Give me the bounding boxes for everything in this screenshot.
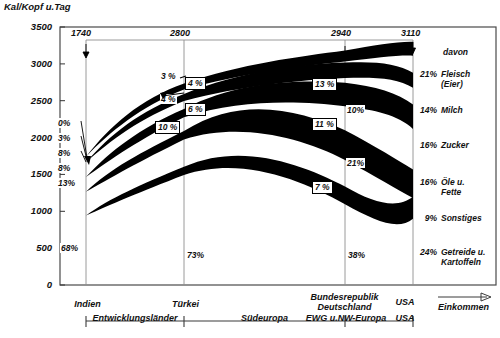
x-category-usa: USA	[380, 297, 430, 307]
indien-leader-lines	[72, 118, 112, 188]
top-value-2800: 2800	[170, 28, 190, 38]
tuerkei-leader-lines	[160, 72, 188, 102]
legend-pct-zucker: 16%	[415, 140, 437, 150]
pct-tuerkei-milch: 4 %	[185, 77, 206, 90]
legend-label-getreide-2: Kartoffeln	[441, 257, 481, 267]
top-value-3110: 3110	[401, 28, 420, 38]
x-group-usa: USA	[380, 313, 430, 323]
pct-indien-milch: 3%	[57, 133, 71, 143]
x-category-indien: Indien	[60, 299, 115, 309]
legend-label-fleisch-2: (Eier)	[441, 79, 463, 89]
legend-label-getreide: Getreide u.	[441, 247, 485, 257]
pct-brd-oele: 21%	[346, 158, 365, 168]
pct-tuerkei-getreide: 73%	[186, 250, 205, 260]
top-value-2940: 2940	[331, 28, 351, 38]
pct-indien-getreide: 68%	[60, 243, 79, 253]
pct-brd-sonstiges: 7 %	[312, 181, 333, 194]
x-group-entwicklungslaender: Entwicklungsländer	[86, 313, 184, 323]
pct-indien-zucker: 8%	[57, 148, 71, 158]
legend-pct-milch: 14%	[415, 105, 437, 115]
x-axis-title: Einkommen	[438, 303, 489, 312]
legend-pct-fleisch: 21%	[415, 69, 437, 79]
legend-label-zucker: Zucker	[441, 140, 469, 150]
legend-label-fleisch: Fleisch	[441, 69, 470, 79]
y-tick-3000: 3000	[0, 58, 52, 69]
legend-label-oele-2: Fette	[441, 187, 461, 197]
y-tick-500: 500	[0, 242, 52, 253]
chart-root: Kal/Kopf u.Tag 3500 3000 2500 2000 1500 …	[0, 0, 500, 338]
pct-indien-oele: 8%	[57, 163, 71, 173]
legend-pct-sonstiges: 9%	[415, 213, 437, 223]
legend-label-oele: Öle u.	[441, 177, 465, 187]
y-tick-2500: 2500	[0, 95, 52, 106]
pct-tuerkei-sonstiges: 10 %	[155, 121, 180, 134]
pct-tuerkei-oele: 6 %	[185, 103, 206, 116]
pct-indien-fleisch: 0%	[57, 118, 71, 128]
y-axis-title: Kal/Kopf u.Tag	[4, 2, 71, 12]
top-value-1740: 1740	[71, 28, 91, 38]
legend-pct-oele: 16%	[415, 177, 437, 187]
legend-header: davon	[443, 47, 468, 57]
y-tick-2000: 2000	[0, 132, 52, 143]
legend-pct-getreide: 24%	[415, 247, 437, 257]
legend-label-sonstiges: Sonstiges	[441, 213, 482, 223]
x-category-tuerkei: Türkei	[158, 299, 213, 309]
pct-brd-getreide: 38%	[347, 250, 366, 260]
y-tick-3500: 3500	[0, 21, 52, 32]
pct-brd-zucker: 11 %	[312, 118, 337, 131]
y-tick-1000: 1000	[0, 205, 52, 216]
legend-label-milch: Milch	[441, 105, 463, 115]
pct-brd-milch: 10%	[346, 105, 365, 115]
y-tick-1500: 1500	[0, 168, 52, 179]
pct-brd-fleisch: 13 %	[312, 78, 337, 91]
